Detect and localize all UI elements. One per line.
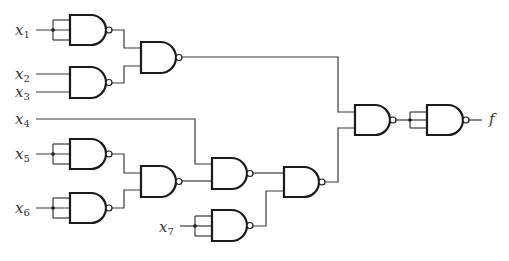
- nand-gate-g6: [70, 193, 112, 223]
- nand-gate-g8: [212, 158, 253, 189]
- nand-gate-body: [70, 15, 106, 45]
- nand-gate-g7: [141, 166, 182, 197]
- nand-circuit-diagram: [0, 0, 509, 261]
- input-subscript: 2: [23, 73, 29, 84]
- nand-gate-body: [141, 166, 176, 197]
- input-label-x5: x5: [15, 147, 30, 164]
- nand-gate-body: [70, 193, 106, 223]
- wire: [112, 30, 141, 48]
- nand-gate-body: [141, 42, 176, 73]
- input-subscript: 1: [23, 29, 29, 40]
- inversion-bubble-icon: [106, 151, 112, 157]
- nand-gate-body: [70, 67, 106, 98]
- inversion-bubble-icon: [106, 27, 112, 33]
- inversion-bubble-icon: [176, 179, 182, 185]
- wire: [112, 190, 141, 208]
- input-subscript: 3: [23, 91, 29, 102]
- inversion-bubble-icon: [463, 117, 469, 123]
- wire: [325, 128, 355, 182]
- nand-gate-body: [212, 158, 247, 189]
- junction-dot-icon: [51, 206, 55, 210]
- junction-dot-icon: [408, 118, 412, 122]
- nand-gate-g9: [284, 167, 325, 197]
- wire: [112, 154, 141, 173]
- wire: [182, 57, 355, 112]
- nand-gate-body: [212, 210, 247, 241]
- input-subscript: 7: [167, 226, 173, 237]
- nand-gate-body: [284, 167, 319, 197]
- input-label-x3: x3: [15, 85, 30, 102]
- inversion-bubble-icon: [176, 55, 182, 61]
- junction-dot-icon: [51, 152, 55, 156]
- nand-gate-g3: [141, 42, 182, 73]
- nand-gate-g10: [212, 210, 253, 241]
- input-label-x2: x2: [15, 67, 30, 84]
- nand-gate-body: [355, 105, 390, 135]
- inversion-bubble-icon: [319, 179, 325, 185]
- nand-gate-g2: [70, 67, 112, 98]
- input-label-x6: x6: [15, 201, 30, 218]
- junction-dot-icon: [193, 224, 197, 228]
- output-label-f: f: [489, 112, 495, 127]
- input-subscript: 4: [23, 118, 29, 129]
- nand-gate-g1: [70, 15, 112, 45]
- junction-dot-icon: [51, 28, 55, 32]
- inversion-bubble-icon: [247, 171, 253, 177]
- input-label-x7: x7: [159, 220, 174, 237]
- wire: [253, 191, 284, 226]
- inversion-bubble-icon: [247, 223, 253, 229]
- input-subscript: 6: [23, 207, 29, 218]
- input-label-x4: x4: [15, 112, 30, 129]
- nand-gate-g5: [70, 139, 112, 169]
- input-label-x1: x1: [15, 23, 30, 40]
- inversion-bubble-icon: [106, 205, 112, 211]
- nand-gate-body: [70, 139, 106, 169]
- inversion-bubble-icon: [390, 117, 396, 123]
- wire: [112, 66, 141, 83]
- nand-gate-body: [427, 105, 463, 135]
- inversion-bubble-icon: [106, 80, 112, 86]
- nand-gate-g12: [427, 105, 469, 135]
- gates: [70, 15, 469, 241]
- nand-gate-g11: [355, 105, 396, 135]
- input-subscript: 5: [23, 153, 29, 164]
